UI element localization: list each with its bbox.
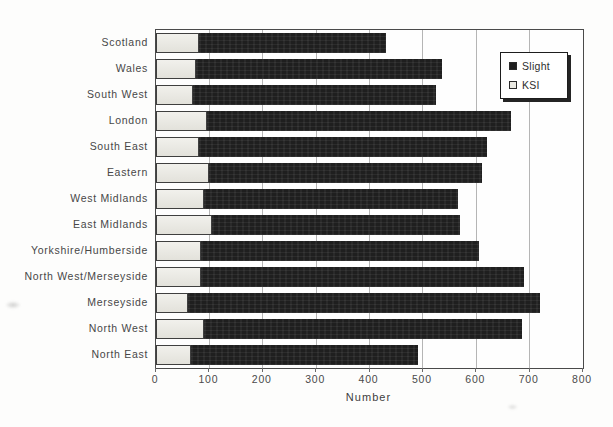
bar-row-south-west	[156, 85, 436, 105]
bar-row-eastern	[156, 163, 482, 183]
legend-label-slight: Slight	[522, 61, 550, 71]
x-tick-mark	[262, 368, 263, 372]
bar-row-wales	[156, 59, 442, 79]
x-tick-label-400: 400	[344, 373, 394, 385]
bar-segment-ksi	[156, 85, 193, 105]
bar-row-merseyside	[156, 293, 540, 313]
bar-row-yorkshire-humberside	[156, 241, 479, 261]
stacked-bar-chart: ScotlandWalesSouth WestLondonSouth EastE…	[0, 0, 613, 427]
bar-row-scotland	[156, 33, 386, 53]
bar-segment-slight	[207, 111, 511, 131]
bar-segment-slight	[199, 33, 386, 53]
category-label-yorkshire-humberside: Yorkshire/Humberside	[0, 239, 148, 261]
bar-segment-ksi	[156, 189, 204, 209]
x-tick-label-600: 600	[450, 373, 500, 385]
bar-segment-slight	[204, 189, 458, 209]
bar-segment-slight	[201, 267, 524, 287]
category-label-merseyside: Merseyside	[0, 291, 148, 313]
bar-row-north-east	[156, 345, 418, 365]
category-label-west-midlands: West Midlands	[0, 187, 148, 209]
category-label-south-west: South West	[0, 83, 148, 105]
bar-segment-ksi	[156, 293, 188, 313]
bar-segment-ksi	[156, 163, 209, 183]
bar-segment-slight	[191, 345, 418, 365]
x-tick-label-300: 300	[290, 373, 340, 385]
bar-segment-ksi	[156, 33, 199, 53]
bar-segment-ksi	[156, 319, 204, 339]
bar-row-east-midlands	[156, 215, 460, 235]
bar-segment-slight	[199, 137, 487, 157]
category-label-eastern: Eastern	[0, 161, 148, 183]
scan-smudge	[507, 404, 518, 410]
x-tick-mark	[422, 368, 423, 372]
bar-segment-ksi	[156, 137, 199, 157]
legend-label-ksi: KSI	[522, 80, 540, 90]
legend-box: SlightKSI	[500, 52, 568, 99]
x-tick-mark	[315, 368, 316, 372]
bar-segment-ksi	[156, 59, 196, 79]
x-tick-label-100: 100	[183, 373, 233, 385]
gridline-600	[476, 30, 477, 368]
x-tick-mark	[155, 368, 156, 372]
bar-row-south-east	[156, 137, 487, 157]
bar-segment-ksi	[156, 345, 191, 365]
x-tick-mark	[475, 368, 476, 372]
legend-item-slight: Slight	[509, 61, 563, 71]
x-axis-title: Number	[155, 391, 582, 403]
category-label-north-east: North East	[0, 343, 148, 365]
bar-row-west-midlands	[156, 189, 458, 209]
bar-row-london	[156, 111, 511, 131]
category-label-north-west: North West	[0, 317, 148, 339]
bar-row-north-west-merseyside	[156, 267, 524, 287]
bar-segment-slight	[193, 85, 436, 105]
bar-segment-ksi	[156, 267, 201, 287]
bar-segment-ksi	[156, 215, 212, 235]
x-tick-label-700: 700	[504, 373, 554, 385]
bar-segment-slight	[204, 319, 522, 339]
x-tick-label-200: 200	[237, 373, 287, 385]
category-label-east-midlands: East Midlands	[0, 213, 148, 235]
bar-segment-slight	[212, 215, 460, 235]
category-label-north-west-merseyside: North West/Merseyside	[0, 265, 148, 287]
x-tick-label-500: 500	[397, 373, 447, 385]
bar-row-north-west	[156, 319, 522, 339]
bar-segment-slight	[196, 59, 442, 79]
category-label-wales: Wales	[0, 57, 148, 79]
legend-swatch-slight	[509, 62, 517, 70]
x-tick-mark	[582, 368, 583, 372]
x-tick-label-800: 800	[557, 373, 607, 385]
bar-segment-ksi	[156, 241, 201, 261]
bar-segment-ksi	[156, 111, 207, 131]
category-label-scotland: Scotland	[0, 31, 148, 53]
legend-item-ksi: KSI	[509, 80, 563, 90]
scan-smudge	[5, 301, 21, 309]
x-tick-mark	[369, 368, 370, 372]
category-label-london: London	[0, 109, 148, 131]
category-label-south-east: South East	[0, 135, 148, 157]
x-tick-mark	[208, 368, 209, 372]
bar-segment-slight	[188, 293, 540, 313]
bar-segment-slight	[209, 163, 481, 183]
x-tick-mark	[529, 368, 530, 372]
legend-swatch-ksi	[509, 81, 517, 89]
x-tick-label-0: 0	[130, 373, 180, 385]
bar-segment-slight	[201, 241, 479, 261]
